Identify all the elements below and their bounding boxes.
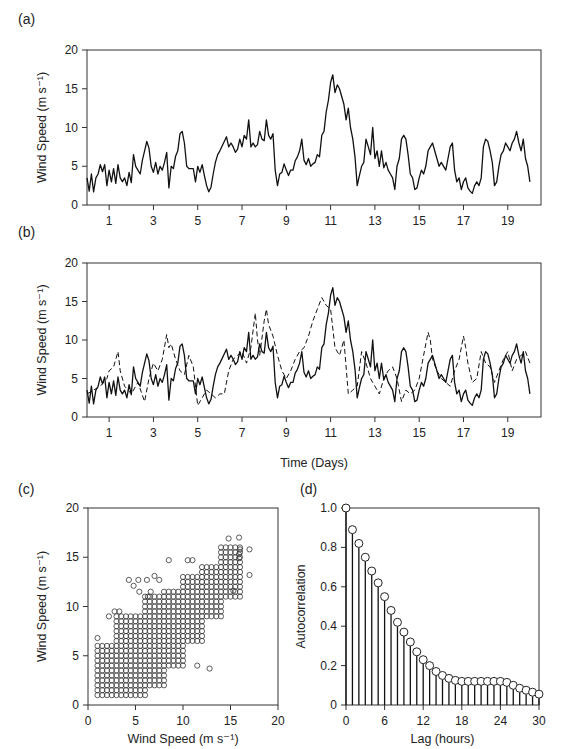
x-tick-label: 17: [457, 214, 471, 228]
scatter-point: [226, 536, 231, 541]
x-tick-label: 20: [271, 714, 285, 728]
y-axis-label: Wind Speed (m s⁻¹): [35, 551, 49, 662]
x-tick-label: 19: [501, 426, 515, 440]
stem-marker: [374, 579, 382, 587]
x-tick-label: 13: [368, 214, 382, 228]
x-axis-label: Lag (hours): [411, 732, 475, 746]
y-tick-label: 0.8: [320, 540, 337, 554]
x-tick-label: 12: [417, 714, 431, 728]
y-tick-label: 0: [71, 410, 78, 424]
scatter-point: [148, 589, 153, 594]
x-axis-label: Time (Days): [280, 456, 348, 470]
stem-marker: [393, 618, 401, 626]
x-tick-label: 0: [343, 714, 350, 728]
y-tick-label: 15: [65, 82, 79, 96]
y-tick-label: 0: [71, 198, 78, 212]
x-tick-label: 1: [106, 214, 113, 228]
scatter-point: [137, 589, 142, 594]
scatter-point: [166, 558, 171, 563]
stem-marker: [413, 648, 421, 656]
x-tick-label: 0: [85, 714, 92, 728]
y-tick-label: 0: [330, 698, 337, 712]
stem-marker: [400, 628, 408, 636]
x-tick-label: 11: [324, 214, 337, 228]
y-axis-label: Wind Speed (m s⁻¹): [35, 72, 49, 183]
plot-frame: [87, 50, 541, 205]
x-tick-label: 5: [194, 214, 201, 228]
stem-marker: [419, 656, 427, 664]
y-tick-label: 20: [65, 256, 79, 270]
scatter-point: [136, 577, 141, 582]
x-tick-label: 19: [501, 214, 515, 228]
scatter-point: [236, 535, 241, 540]
x-tick-label: 5: [132, 714, 139, 728]
x-tick-label: 9: [283, 426, 290, 440]
panel-c: (c)0510152005101520Wind Speed (m s⁻¹)Win…: [18, 481, 285, 746]
y-tick-label: 15: [65, 295, 79, 309]
series-observed: [87, 288, 530, 406]
y-tick-label: 20: [65, 43, 79, 57]
x-tick-label: 3: [150, 426, 157, 440]
stem-marker: [535, 690, 543, 698]
x-tick-label: 7: [239, 214, 246, 228]
plot-frame: [87, 263, 541, 417]
y-tick-label: 0: [72, 698, 79, 712]
scatter-point: [144, 577, 149, 582]
x-tick-label: 1: [106, 426, 113, 440]
series-observed: [87, 75, 530, 194]
x-tick-label: 6: [381, 714, 388, 728]
figure-canvas: (a)05101520135791113151719Wind Speed (m …: [0, 0, 571, 749]
y-tick-label: 10: [65, 121, 79, 135]
x-tick-label: 5: [194, 426, 201, 440]
y-tick-label: 0.2: [320, 659, 337, 673]
y-tick-label: 0.6: [320, 580, 337, 594]
y-tick-label: 5: [71, 159, 78, 173]
stem-marker: [342, 504, 350, 512]
x-tick-label: 30: [532, 714, 546, 728]
stem-marker: [361, 553, 369, 561]
x-tick-label: 13: [368, 426, 382, 440]
y-tick-label: 0.4: [320, 619, 337, 633]
panel-label: (b): [18, 224, 35, 240]
panel-b: (b)05101520135791113151719Wind Speed (m …: [18, 224, 541, 470]
scatter-point: [131, 583, 136, 588]
stem-marker: [387, 606, 395, 614]
stem-marker: [348, 526, 356, 534]
panel-label: (a): [18, 11, 35, 27]
scatter-points: [95, 535, 252, 698]
y-tick-label: 15: [66, 550, 80, 564]
scatter-point: [247, 547, 252, 552]
y-axis-label: Wind Speed (m s⁻¹): [35, 284, 49, 395]
y-tick-label: 5: [72, 649, 79, 663]
stem-marker: [368, 567, 376, 575]
x-tick-label: 15: [413, 426, 427, 440]
x-tick-label: 17: [457, 426, 471, 440]
stem-marker: [406, 638, 414, 646]
panel-label: (d): [300, 481, 317, 497]
scatter-point: [106, 614, 111, 619]
panel-d: (d)00.20.40.60.81.00612182430Autocorrela…: [294, 481, 546, 746]
x-tick-label: 7: [239, 426, 246, 440]
y-tick-label: 5: [71, 372, 78, 386]
series-modeled: [87, 298, 530, 406]
scatter-point: [207, 666, 212, 671]
stem-marker: [355, 539, 363, 547]
x-tick-label: 18: [455, 714, 469, 728]
x-tick-label: 10: [176, 714, 190, 728]
x-tick-label: 15: [224, 714, 238, 728]
stem-marker: [426, 662, 434, 670]
stem-marker: [381, 593, 389, 601]
y-tick-label: 1.0: [320, 501, 337, 515]
scatter-point: [152, 573, 157, 578]
scatter-point: [195, 663, 200, 668]
scatter-point: [95, 635, 100, 640]
x-tick-label: 15: [413, 214, 427, 228]
y-tick-label: 20: [66, 501, 80, 515]
panel-a: (a)05101520135791113151719Wind Speed (m …: [18, 11, 541, 228]
y-axis-label: Autocorrelation: [294, 564, 308, 648]
x-tick-label: 9: [283, 214, 290, 228]
plot-frame: [88, 508, 278, 705]
scatter-point: [157, 577, 162, 582]
scatter-point: [126, 577, 131, 582]
x-axis-label: Wind Speed (m s⁻¹): [127, 732, 238, 746]
